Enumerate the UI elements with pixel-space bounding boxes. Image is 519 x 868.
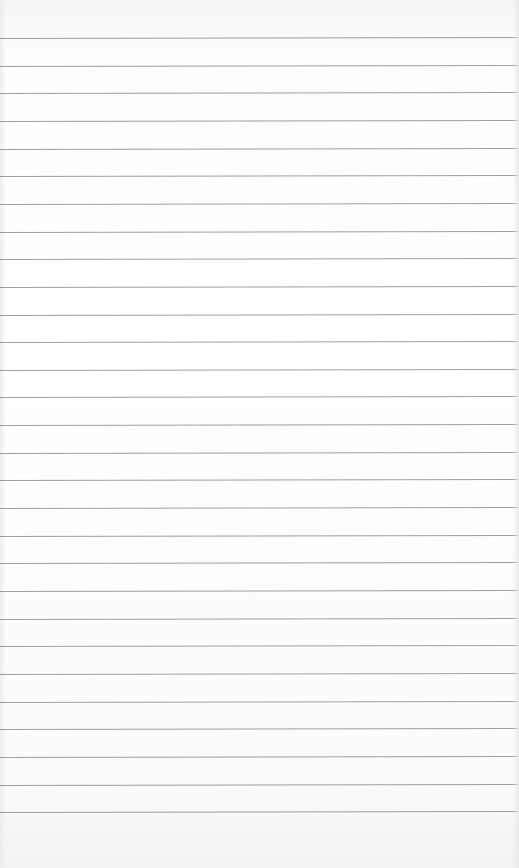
- ruled-line: [0, 562, 519, 564]
- ruled-line: [0, 313, 519, 315]
- ruled-line: [0, 424, 519, 426]
- ruled-line: [0, 120, 519, 122]
- ruled-line: [0, 92, 519, 94]
- ruled-line: [0, 535, 519, 537]
- ruled-line: [0, 286, 519, 288]
- ruled-line: [0, 203, 519, 205]
- ruled-line: [0, 230, 519, 232]
- ruled-line: [0, 728, 519, 730]
- ruled-line: [0, 148, 519, 150]
- ruled-line: [0, 645, 519, 647]
- ruled-line: [0, 479, 519, 481]
- ruled-line: [0, 507, 519, 509]
- ruled-line: [0, 701, 519, 703]
- lined-paper: [0, 0, 519, 868]
- ruled-line: [0, 341, 519, 343]
- ruled-line: [0, 369, 519, 371]
- ruled-line: [0, 65, 519, 67]
- ruled-line: [0, 756, 519, 758]
- ruled-line: [0, 452, 519, 454]
- ruled-line: [0, 37, 519, 39]
- ruled-line: [0, 618, 519, 620]
- ruled-line: [0, 175, 519, 177]
- ruled-line: [0, 590, 519, 592]
- ruled-line: [0, 258, 519, 260]
- ruled-line: [0, 673, 519, 675]
- ruled-line: [0, 811, 519, 813]
- ruled-line: [0, 783, 519, 785]
- ruled-line: [0, 396, 519, 398]
